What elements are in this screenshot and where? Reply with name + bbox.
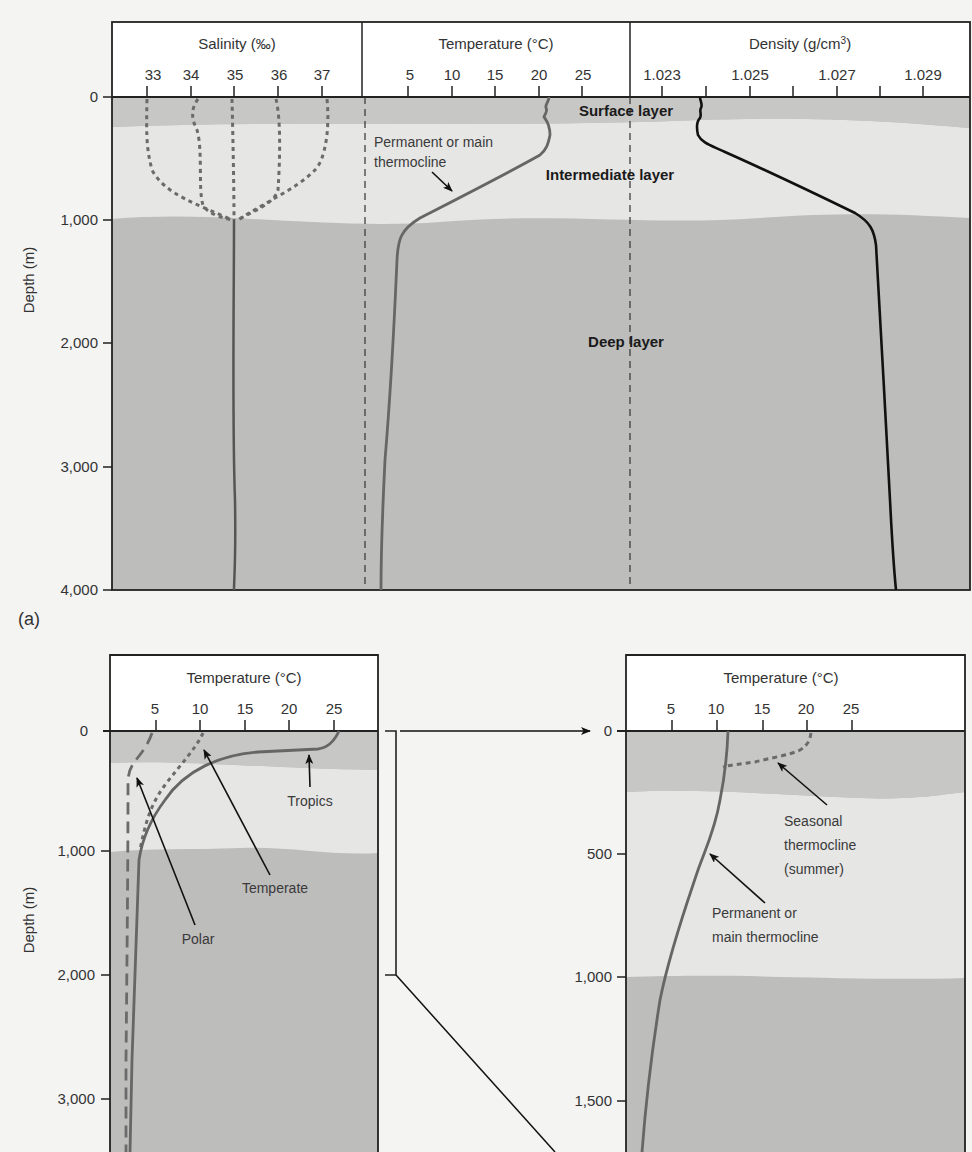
deep-layer-label: Deep layer [588, 333, 664, 350]
tick-label: 20 [798, 700, 815, 717]
tick-label: 25 [326, 700, 343, 717]
annotation-line: Permanent or [712, 905, 797, 921]
zoom-bracket [385, 731, 396, 975]
tick-label: 37 [314, 66, 331, 83]
tick-label: 10 [192, 700, 209, 717]
temperate-label: Temperate [242, 880, 308, 896]
surface-layer-label: Surface layer [579, 102, 673, 119]
annotation-line: thermocline [784, 837, 857, 853]
tick-label: 25 [575, 66, 592, 83]
panel-a: Salinity (‰) Temperature (°C) Density (g… [18, 22, 970, 629]
tick-label: 1.025 [731, 66, 769, 83]
tick-label: 36 [271, 66, 288, 83]
annotation-line: Seasonal [784, 813, 842, 829]
tropics-arrow [309, 755, 310, 787]
panel-b-latitude: Temperature (°C) 5 10 15 20 25 0 1,000 2… [20, 655, 590, 1152]
depth-tick-label: 0 [80, 722, 88, 739]
depth-tick-label: 1,000 [57, 842, 95, 859]
tick-label: 35 [227, 66, 244, 83]
intermediate-layer-label: Intermediate layer [546, 166, 675, 183]
panel-c-seasonal: Temperature (°C) 5 10 15 20 25 0 500 1,0… [574, 655, 965, 1152]
intermediate-layer-band [112, 119, 970, 224]
tick-label: 10 [708, 700, 725, 717]
salinity-axis-title: Salinity (‰) [198, 35, 276, 52]
surface-layer-band [626, 731, 965, 798]
annotation-line: main thermocline [712, 929, 819, 945]
depth-tick-label: 1,000 [60, 211, 98, 228]
tick-label: 33 [145, 66, 162, 83]
depth-tick-label: 1,500 [574, 1092, 612, 1109]
ocean-layers-figure: Salinity (‰) Temperature (°C) Density (g… [0, 0, 972, 1152]
depth-ticks-a [103, 97, 112, 590]
tick-label: 15 [487, 66, 504, 83]
tick-label: 10 [444, 66, 461, 83]
polar-label: Polar [182, 931, 215, 947]
tick-label: 5 [406, 66, 414, 83]
depth-axis-title-a: Depth (m) [20, 247, 37, 314]
depth-tick-label: 0 [90, 88, 98, 105]
tick-label: 20 [281, 700, 298, 717]
tick-label: 20 [531, 66, 548, 83]
depth-tick-label: 4,000 [60, 581, 98, 598]
depth-tick-label: 3,000 [60, 458, 98, 475]
tick-label: 1.027 [818, 66, 856, 83]
depth-axis-title-b: Depth (m) [20, 887, 37, 954]
annotation-line: thermocline [374, 154, 447, 170]
depth-tick-label: 1,000 [574, 968, 612, 985]
header-area-b [110, 655, 378, 731]
depth-tick-label: 2,000 [60, 334, 98, 351]
temperature-axis-title-b: Temperature (°C) [186, 669, 301, 686]
annotation-line: (summer) [784, 861, 844, 877]
tick-label: 5 [151, 700, 159, 717]
tick-label: 5 [667, 700, 675, 717]
temperature-axis-title-a: Temperature (°C) [438, 35, 553, 52]
panel-a-label: (a) [18, 609, 40, 629]
header-area-a [112, 22, 970, 97]
tick-label: 15 [237, 700, 254, 717]
tick-label: 25 [843, 700, 860, 717]
tick-label: 34 [183, 66, 200, 83]
depth-tick-label: 3,000 [57, 1090, 95, 1107]
tropics-label: Tropics [287, 793, 332, 809]
zoom-connector-bottom [396, 975, 555, 1152]
header-area-c [626, 655, 965, 731]
depth-ticks-c [617, 854, 626, 1101]
annotation-line: Permanent or main [374, 134, 493, 150]
tick-label: 15 [754, 700, 771, 717]
tick-label: 1.029 [904, 66, 942, 83]
layer-bands-a [112, 97, 970, 590]
depth-ticks-b [101, 851, 110, 1099]
depth-tick-label: 2,000 [57, 966, 95, 983]
tick-label: 1.023 [643, 66, 681, 83]
depth-tick-label: 0 [604, 722, 612, 739]
depth-tick-label: 500 [587, 845, 612, 862]
density-axis-title: Density (g/cm3) [749, 35, 851, 53]
temperature-axis-title-c: Temperature (°C) [723, 669, 838, 686]
